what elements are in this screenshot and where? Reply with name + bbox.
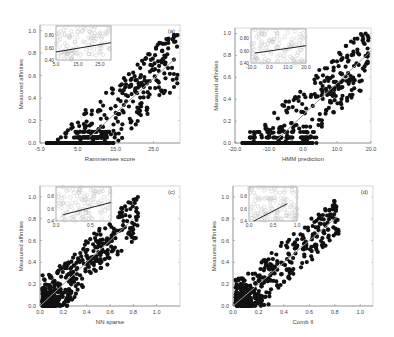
inset-x-tick: 1.0 <box>294 223 301 228</box>
x-tick-label: 0.0 <box>36 309 44 315</box>
y-tick-label: 1.0 <box>221 194 229 200</box>
y-tick-label: 0.2 <box>28 118 36 124</box>
y-tick-label: 0.4 <box>223 96 231 102</box>
inset-y-tick: 0.60 <box>45 46 55 51</box>
y-tick-label: 1.0 <box>223 30 231 36</box>
inset-y-tick: 0.80 <box>45 33 55 38</box>
inset-x-tick: 0.0 <box>53 223 60 228</box>
x-axis-label: HMM prediction <box>282 156 324 162</box>
x-tick-label: 0.2 <box>255 309 263 315</box>
inset-plot: 0.40.60.80.00.51.0 <box>240 185 300 228</box>
x-tick-label: -20.0 <box>229 146 242 152</box>
y-tick-label: 1.0 <box>28 28 36 34</box>
inset-y-tick: 0.80 <box>240 36 250 41</box>
y-tick-label: 0.2 <box>221 281 229 287</box>
panel-label: (d) <box>361 189 368 195</box>
y-tick-label: 0.0 <box>28 303 36 309</box>
x-tick-label: 0.4 <box>280 309 288 315</box>
x-tick-label: 0.8 <box>331 309 339 315</box>
y-tick-label: 0.4 <box>28 259 36 265</box>
inset-x-tick: 25.0 <box>95 62 105 67</box>
inset-x-tick: 5.0 <box>53 62 60 67</box>
panel-a: 0.00.20.40.60.81.0-5.05.015.025.0Rammens… <box>0 0 197 173</box>
y-tick-label: 0.6 <box>28 73 36 79</box>
y-tick-label: 0.2 <box>28 281 36 287</box>
x-axis-label: NN sparse <box>96 319 125 325</box>
x-tick-label: 0.0 <box>299 146 307 152</box>
x-axis-label: Comb II <box>292 319 313 325</box>
inset-x-tick: -10.0 <box>246 65 257 70</box>
trend-line <box>40 219 133 306</box>
panel-label: (c) <box>168 189 175 195</box>
inset-y-tick: 0.6 <box>47 207 54 212</box>
y-tick-label: 0.0 <box>221 303 229 309</box>
x-tick-label: 1.0 <box>153 309 161 315</box>
inset-x-tick: 20.0 <box>301 65 311 70</box>
y-tick-label: 0.6 <box>223 74 231 80</box>
x-tick-label: -10.0 <box>263 146 276 152</box>
x-tick-label: 20.0 <box>366 146 377 152</box>
x-axis-label: Rammensee score <box>85 156 136 162</box>
x-tick-label: 15.0 <box>110 146 121 152</box>
x-tick-label: 0.6 <box>306 309 314 315</box>
inset-plot: 0.400.600.805.015.025.0 <box>45 25 112 67</box>
y-axis-label: Measured affinities <box>211 221 217 271</box>
x-tick-label: 1.0 <box>356 309 364 315</box>
y-tick-label: 0.8 <box>28 50 36 56</box>
panel-c: 0.00.20.40.60.81.00.00.20.40.60.81.0NN s… <box>0 168 197 337</box>
inset-y-tick: 0.8 <box>240 194 247 199</box>
x-tick-label: 0.4 <box>83 309 91 315</box>
y-tick-label: 1.0 <box>28 194 36 200</box>
y-tick-label: 0.4 <box>221 259 229 265</box>
inset-y-tick: 0.8 <box>47 194 54 199</box>
trend-line <box>89 58 176 138</box>
inset-x-tick: 0.0 <box>266 65 273 70</box>
y-tick-label: 0.6 <box>28 238 36 244</box>
x-tick-label: 10.0 <box>332 146 343 152</box>
y-axis-label: Measured affinities <box>18 59 24 109</box>
x-tick-label: 0.6 <box>106 309 114 315</box>
x-tick-label: 0.2 <box>60 309 68 315</box>
inset-x-tick: 0.5 <box>87 223 94 228</box>
x-tick-label: 0.0 <box>229 309 237 315</box>
y-axis-label: Measured affinities <box>18 221 24 271</box>
trend-line <box>233 217 337 306</box>
panel-d: 0.00.20.40.60.81.00.00.20.40.60.81.0Comb… <box>197 168 394 337</box>
y-tick-label: 0.4 <box>28 95 36 101</box>
y-tick-label: 0.2 <box>223 118 231 124</box>
panel-b: 0.00.20.40.60.81.0-20.0-10.00.010.020.0H… <box>197 0 394 173</box>
inset-x-tick: 10.0 <box>283 65 293 70</box>
x-tick-label: -5.0 <box>35 146 44 152</box>
inset-x-tick: 0.5 <box>270 223 277 228</box>
y-axis-label: Measured affinities <box>213 60 219 110</box>
y-tick-label: 0.8 <box>223 52 231 58</box>
inset-plot: 0.40.60.80.00.5 <box>47 185 112 228</box>
inset-y-tick: 0.6 <box>240 207 247 212</box>
x-tick-label: 0.8 <box>130 309 138 315</box>
inset-plot: 0.400.600.80-10.00.010.020.0 <box>240 28 311 70</box>
y-tick-label: 0.8 <box>221 216 229 222</box>
inset-x-tick: 15.0 <box>73 62 83 67</box>
x-tick-label: 25.0 <box>148 146 159 152</box>
y-tick-label: 0.6 <box>221 238 229 244</box>
x-tick-label: 5.0 <box>74 146 82 152</box>
inset-y-tick: 0.60 <box>240 49 250 54</box>
y-tick-label: 0.8 <box>28 216 36 222</box>
inset-x-tick: 0.0 <box>246 223 253 228</box>
